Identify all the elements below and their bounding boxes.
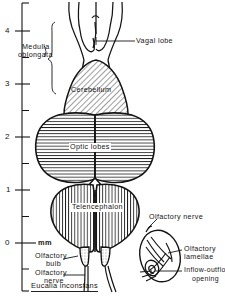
scale-tick-label-1: 1 xyxy=(6,185,10,194)
olfactory-bulb-left xyxy=(80,247,89,266)
telencephalon-right xyxy=(96,184,139,252)
scale-minor-ticks xyxy=(22,58,29,270)
inset-olfactory-nerve-label: Olfactory nerve xyxy=(149,213,203,222)
scale-major-ticks xyxy=(15,31,36,243)
telencephalon-label: Telencephalon xyxy=(71,203,124,212)
medulla-oblongata-label-line2: oblongata xyxy=(18,51,53,60)
olfactory-organ-inset xyxy=(135,226,185,286)
cerebellum-label: Cerebellum xyxy=(71,86,111,95)
scale-tick-label-2: 2 xyxy=(5,132,9,141)
inset-inflow-outflow-label-line2: opening xyxy=(192,275,219,284)
scale-unit-label: mm xyxy=(38,239,52,248)
inset-inflow-outflow-label-line1: Inflow-outflow xyxy=(184,266,225,275)
vagal-lobe-label: Vagal lobe xyxy=(136,37,173,46)
scale-tick-label-0: 0 xyxy=(5,238,9,247)
olfactory-bulb-right xyxy=(101,247,110,266)
optic-lobes-label: Optic lobes xyxy=(69,143,111,152)
telencephalon-left xyxy=(51,184,94,252)
species-caption: Eucalia inconstans xyxy=(31,281,98,292)
inset-olfactory-lamellae-label-line2: lamellae xyxy=(184,253,214,262)
scale-tick-label-3: 3 xyxy=(5,79,9,88)
scale-tick-label-4: 4 xyxy=(5,26,9,35)
